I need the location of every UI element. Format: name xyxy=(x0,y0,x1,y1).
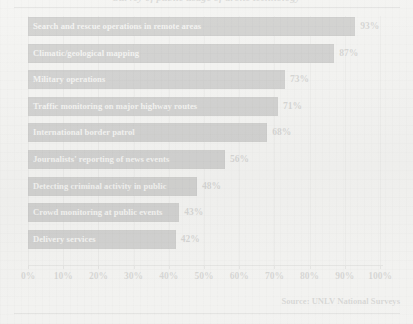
bar-row: Crowd monitoring at public events43% xyxy=(28,203,380,222)
bar-category-label: Detecting criminal activity in public xyxy=(33,177,167,196)
x-axis-tick-label: 80% xyxy=(290,271,330,281)
bar-row: Climatic/geological mapping87% xyxy=(28,44,380,63)
x-axis-tick xyxy=(28,265,29,269)
source-note: Source: UNLV National Surveys xyxy=(282,296,401,306)
bar-category-label: Delivery services xyxy=(33,230,96,249)
x-axis-tick xyxy=(169,265,170,269)
bar-row: Journalists' reporting of news events56% xyxy=(28,150,380,169)
x-axis-tick xyxy=(204,265,205,269)
x-axis-tick xyxy=(239,265,240,269)
chart-page: Survey of public usage of drone technolo… xyxy=(0,0,413,324)
x-axis-line xyxy=(28,265,383,266)
x-axis-tick xyxy=(63,265,64,269)
chart-title: Survey of public usage of drone technolo… xyxy=(0,0,413,4)
bar-value-label: 43% xyxy=(184,203,203,222)
x-axis-tick-label: 20% xyxy=(78,271,118,281)
x-axis-tick xyxy=(134,265,135,269)
bar-value-label: 42% xyxy=(181,230,200,249)
bar-row: Delivery services42% xyxy=(28,230,380,249)
bar-value-label: 71% xyxy=(283,97,302,116)
x-axis-tick-label: 50% xyxy=(184,271,224,281)
bar-value-label: 48% xyxy=(202,177,221,196)
bar-value-label: 93% xyxy=(360,17,379,36)
bar-row: Search and rescue operations in remote a… xyxy=(28,17,380,36)
bar-value-label: 68% xyxy=(272,123,291,142)
bar-row: Traffic monitoring on major highway rout… xyxy=(28,97,380,116)
chart-title-clipped: Survey of public usage of drone technolo… xyxy=(0,0,413,5)
x-axis-tick xyxy=(274,265,275,269)
bar-category-label: Climatic/geological mapping xyxy=(33,44,139,63)
x-axis-tick-label: 60% xyxy=(219,271,259,281)
x-axis-tick-label: 30% xyxy=(114,271,154,281)
top-divider-rule xyxy=(14,7,400,8)
bar-row: International border patrol68% xyxy=(28,123,380,142)
bar-category-label: International border patrol xyxy=(33,123,135,142)
x-axis-tick xyxy=(345,265,346,269)
bar-row: Detecting criminal activity in public48% xyxy=(28,177,380,196)
x-axis-tick-label: 90% xyxy=(325,271,365,281)
x-axis-tick-label: 0% xyxy=(8,271,48,281)
bar-value-label: 87% xyxy=(339,44,358,63)
bar-row: Military operations73% xyxy=(28,70,380,89)
plot-area: Search and rescue operations in remote a… xyxy=(28,16,380,265)
x-axis-tick xyxy=(98,265,99,269)
bar-value-label: 56% xyxy=(230,150,249,169)
x-axis-tick-label: 40% xyxy=(149,271,189,281)
x-axis-tick xyxy=(310,265,311,269)
x-axis-tick-label: 100% xyxy=(360,271,400,281)
bar-category-label: Crowd monitoring at public events xyxy=(33,203,162,222)
x-axis-tick-label: 70% xyxy=(254,271,294,281)
bar-category-label: Military operations xyxy=(33,70,105,89)
bar-value-label: 73% xyxy=(290,70,309,89)
x-axis-tick-label: 10% xyxy=(43,271,83,281)
x-axis-tick xyxy=(380,265,381,269)
bottom-divider-rule xyxy=(14,313,400,314)
bar-category-label: Traffic monitoring on major highway rout… xyxy=(33,97,197,116)
gridline-100 xyxy=(380,16,381,265)
bar-category-label: Journalists' reporting of news events xyxy=(33,150,169,169)
bar-category-label: Search and rescue operations in remote a… xyxy=(33,17,201,36)
